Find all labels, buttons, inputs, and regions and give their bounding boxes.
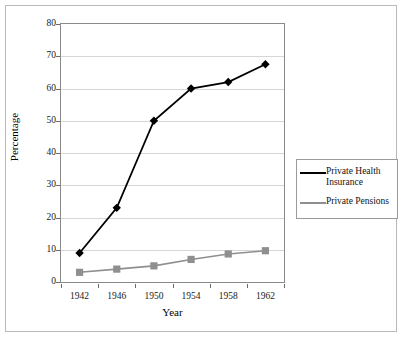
- x-axis-ticks: 194219461950195419581962: [60, 284, 285, 306]
- legend: Private Health Insurance Private Pension…: [296, 159, 398, 219]
- x-tick-mark: [135, 284, 136, 288]
- x-tick-mark: [210, 284, 211, 288]
- y-tick-label: 80: [8, 19, 60, 29]
- legend-label-series2: Private Pensions: [326, 196, 389, 207]
- x-tick-mark: [173, 284, 174, 288]
- y-tick-label: 70: [8, 51, 60, 61]
- data-point-marker: [224, 78, 232, 86]
- data-point-marker: [150, 262, 157, 269]
- x-tick-mark: [247, 284, 248, 288]
- legend-item-private-health-insurance[interactable]: Private Health Insurance: [300, 166, 396, 188]
- data-point-marker: [262, 247, 269, 254]
- series-line-2: [80, 251, 266, 273]
- data-point-marker: [76, 269, 83, 276]
- x-tick-label: 1942: [60, 291, 100, 301]
- legend-item-private-pensions[interactable]: Private Pensions: [300, 196, 396, 209]
- y-axis-label: Percentage: [8, 77, 20, 197]
- chart-figure: 01020304050607080 Percentage 19421946195…: [0, 0, 410, 339]
- data-point-marker: [261, 60, 269, 68]
- legend-marker-square-icon: [300, 197, 326, 209]
- x-tick-label: 1962: [245, 291, 285, 301]
- data-point-marker: [225, 250, 232, 257]
- y-tick-label: 10: [8, 245, 60, 255]
- plot-inner: [61, 24, 284, 282]
- x-tick-mark: [98, 284, 99, 288]
- plot-area: [60, 23, 285, 283]
- series-line-1: [80, 64, 266, 253]
- series-canvas: [61, 24, 284, 282]
- x-tick-mark: [284, 284, 285, 288]
- x-tick-label: 1946: [97, 291, 137, 301]
- x-axis-label: Year: [60, 306, 285, 318]
- y-tick-label: 20: [8, 213, 60, 223]
- y-tick-label: 0: [8, 277, 60, 287]
- legend-marker-diamond-icon: [300, 167, 326, 179]
- x-tick-label: 1958: [208, 291, 248, 301]
- x-tick-label: 1950: [134, 291, 174, 301]
- data-point-marker: [113, 266, 120, 273]
- x-tick-mark: [61, 284, 62, 288]
- legend-label-series1: Private Health Insurance: [326, 166, 396, 188]
- data-point-marker: [187, 256, 194, 263]
- x-tick-label: 1954: [171, 291, 211, 301]
